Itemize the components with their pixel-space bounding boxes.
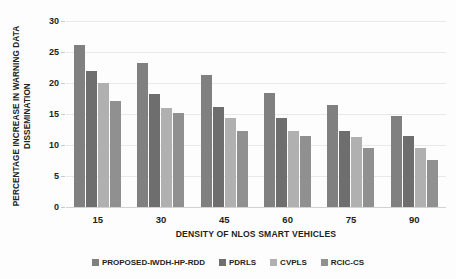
y-axis-tick-20: 20 (49, 78, 59, 88)
legend-item: RCIC-CS (321, 258, 364, 267)
bar (74, 45, 85, 207)
legend-label: PROPOSED-IWDH-HP-RDD (102, 258, 205, 267)
x-axis-tick-75: 75 (319, 214, 382, 225)
legend-item: PDRLS (219, 258, 256, 267)
y-axis-tick-15: 15 (49, 109, 59, 119)
bar (327, 105, 338, 207)
y-axis-tickmark-0 (61, 207, 65, 208)
bar (173, 113, 184, 207)
bar-group-15: 15 (66, 21, 129, 207)
y-axis-tickmark-15 (61, 114, 65, 115)
bar-group-30: 30 (129, 21, 192, 207)
y-axis-title-line2: DISSEMINATION (22, 26, 33, 206)
legend-swatch-icon (321, 259, 328, 266)
bar-group-75: 75 (319, 21, 382, 207)
legend-swatch-icon (270, 259, 277, 266)
bar (300, 136, 311, 207)
y-axis-tickmark-10 (61, 145, 65, 146)
plot-area: 051015202530 153045607590 (66, 21, 446, 207)
y-axis-tick-5: 5 (54, 171, 59, 181)
bar (149, 94, 160, 207)
y-axis-title-line1: PERCENTAGE INCREASE IN WARNING DATA (12, 26, 21, 206)
bar (351, 137, 362, 207)
bar (110, 101, 121, 207)
bar (98, 83, 109, 207)
bar (288, 131, 299, 207)
bar (225, 118, 236, 207)
bar-groups: 153045607590 (66, 21, 446, 207)
x-axis-tick-30: 30 (129, 214, 192, 225)
legend-item: CVPLS (270, 258, 307, 267)
x-axis-tick-15: 15 (66, 214, 129, 225)
y-axis-tickmark-30 (61, 21, 65, 22)
legend-swatch-icon (219, 259, 226, 266)
bar (213, 107, 224, 207)
bar (427, 160, 438, 207)
bar (161, 108, 172, 207)
y-axis-tickmark-20 (61, 83, 65, 84)
bar (137, 63, 148, 207)
legend-label: CVPLS (280, 258, 307, 267)
x-axis-tick-45: 45 (193, 214, 256, 225)
legend-item: PROPOSED-IWDH-HP-RDD (92, 258, 205, 267)
x-axis-title: DENSITY OF NLOS SMART VEHICLES (66, 229, 446, 239)
bar (276, 118, 287, 207)
x-axis-tick-90: 90 (383, 214, 446, 225)
y-axis-tick-25: 25 (49, 47, 59, 57)
chart-legend: PROPOSED-IWDH-HP-RDDPDRLSCVPLSRCIC-CS (0, 258, 456, 267)
chart-figure: PERCENTAGE INCREASE IN WARNING DATA DISS… (0, 0, 456, 279)
bar (339, 131, 350, 207)
legend-swatch-icon (92, 259, 99, 266)
bar (86, 71, 97, 207)
bar (391, 116, 402, 207)
y-axis-title: PERCENTAGE INCREASE IN WARNING DATA DISS… (2, 0, 42, 232)
bar-group-90: 90 (383, 21, 446, 207)
gridline-0: 0 (66, 207, 446, 208)
legend-label: RCIC-CS (331, 258, 364, 267)
y-axis-tickmark-25 (61, 52, 65, 53)
y-axis-tickmark-5 (61, 176, 65, 177)
bar (201, 75, 212, 207)
bar (264, 93, 275, 207)
y-axis-tick-0: 0 (54, 202, 59, 212)
y-axis-tick-30: 30 (49, 16, 59, 26)
bar-group-60: 60 (256, 21, 319, 207)
y-axis-tick-10: 10 (49, 140, 59, 150)
bar (403, 136, 414, 207)
legend-label: PDRLS (229, 258, 256, 267)
x-axis-tick-60: 60 (256, 214, 319, 225)
bar (415, 148, 426, 207)
bar (237, 131, 248, 207)
bar-group-45: 45 (193, 21, 256, 207)
bar (363, 148, 374, 207)
